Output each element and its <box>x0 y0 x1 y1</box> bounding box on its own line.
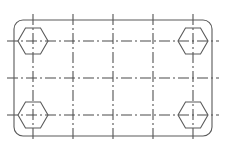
drawing-svg <box>0 0 228 153</box>
drawing-background <box>0 0 228 153</box>
technical-drawing-canvas <box>0 0 228 153</box>
